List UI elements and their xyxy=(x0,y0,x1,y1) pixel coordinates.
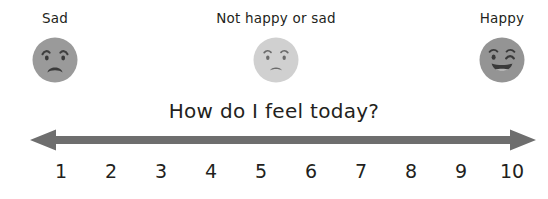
page-title: How do I feel today? xyxy=(0,99,548,123)
scale-number-row: 1 2 3 4 5 6 7 8 9 10 xyxy=(0,160,548,192)
scale-number[interactable]: 4 xyxy=(205,160,217,182)
neutral-face-icon[interactable] xyxy=(253,37,299,83)
scale-number[interactable]: 2 xyxy=(105,160,117,182)
scale-number[interactable]: 7 xyxy=(355,160,367,182)
double-headed-arrow-icon xyxy=(30,126,536,154)
mood-rating-scale: Sad Not happy or sad Happy xyxy=(0,0,548,199)
scale-number[interactable]: 8 xyxy=(405,160,417,182)
scale-number[interactable]: 6 xyxy=(305,160,317,182)
scale-number[interactable]: 9 xyxy=(455,160,467,182)
scale-number[interactable]: 5 xyxy=(255,160,267,182)
scale-number[interactable]: 1 xyxy=(55,160,67,182)
scale-number[interactable]: 3 xyxy=(155,160,167,182)
happy-face-icon[interactable] xyxy=(479,37,525,83)
scale-number[interactable]: 10 xyxy=(500,160,524,182)
sad-face-icon[interactable] xyxy=(32,37,78,83)
anchor-label-happy: Happy xyxy=(480,10,525,26)
anchor-label-sad: Sad xyxy=(42,10,68,26)
anchor-label-neutral: Not happy or sad xyxy=(216,10,335,26)
